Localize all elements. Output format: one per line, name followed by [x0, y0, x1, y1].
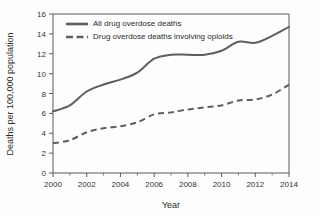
y-axis-ticks: 0246810121416 [37, 10, 53, 178]
x-tick-label: 2008 [179, 180, 197, 189]
y-tick-label: 10 [37, 70, 46, 79]
y-tick-label: 16 [37, 10, 46, 19]
x-tick-label: 2014 [280, 180, 298, 189]
y-tick-label: 12 [37, 50, 46, 59]
x-axis-title: Year [162, 200, 180, 210]
x-tick-label: 2012 [246, 180, 264, 189]
x-tick-label: 2002 [78, 180, 96, 189]
legend-label: All drug overdose deaths [93, 19, 182, 28]
legend-label: Drug overdose deaths involving opioids [93, 32, 233, 41]
x-tick-label: 2000 [44, 180, 62, 189]
chart-canvas: 0246810121416 20002002200420062008201020… [0, 0, 320, 216]
y-tick-label: 8 [42, 90, 47, 99]
x-tick-label: 2010 [213, 180, 231, 189]
series-line-opioid-overdose-deaths [53, 85, 289, 144]
x-tick-label: 2006 [145, 180, 163, 189]
y-tick-label: 14 [37, 30, 46, 39]
y-axis-title: Deaths per 100,000 population [5, 32, 15, 155]
chart-legend: All drug overdose deathsDrug overdose de… [66, 19, 233, 41]
series-group [53, 27, 289, 143]
line-chart: 0246810121416 20002002200420062008201020… [0, 0, 320, 216]
y-tick-label: 6 [42, 109, 47, 118]
y-tick-label: 4 [42, 129, 47, 138]
y-tick-label: 0 [42, 169, 47, 178]
y-tick-label: 2 [42, 149, 47, 158]
x-tick-label: 2004 [112, 180, 130, 189]
